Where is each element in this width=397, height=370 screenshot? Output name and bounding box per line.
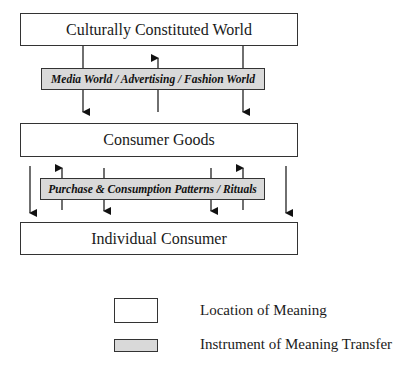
legend-instrument-label: Instrument of Meaning Transfer (200, 336, 392, 353)
location-consumer-goods: Consumer Goods (20, 123, 298, 157)
instrument-label: Purchase & Consumption Patterns / Ritual… (48, 183, 257, 195)
legend-instrument-swatch (114, 339, 158, 352)
legend-location-label: Location of Meaning (200, 302, 327, 319)
instrument-media-advertising-fashion: Media World / Advertising / Fashion Worl… (41, 68, 265, 90)
legend-location-swatch (114, 298, 158, 323)
instrument-purchase-consumption-rituals: Purchase & Consumption Patterns / Ritual… (40, 178, 265, 200)
location-label: Consumer Goods (103, 131, 215, 149)
instrument-label: Media World / Advertising / Fashion Worl… (51, 73, 255, 85)
location-label: Individual Consumer (91, 230, 227, 248)
location-individual-consumer: Individual Consumer (20, 222, 298, 255)
location-label: Culturally Constituted World (66, 21, 252, 39)
location-culturally-constituted-world: Culturally Constituted World (20, 13, 298, 46)
